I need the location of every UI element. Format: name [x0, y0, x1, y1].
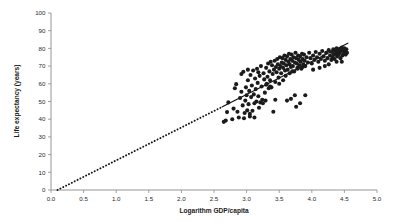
- x-tick-label: 1.5: [144, 195, 153, 202]
- data-point: [327, 62, 331, 66]
- data-point: [310, 61, 314, 65]
- data-point: [237, 115, 241, 119]
- y-tick-label: 40: [39, 115, 46, 122]
- data-point: [290, 69, 294, 73]
- data-point: [271, 72, 275, 76]
- data-point: [262, 71, 266, 75]
- y-tick-label: 30: [39, 133, 46, 140]
- data-point: [277, 76, 281, 80]
- data-point: [284, 74, 288, 78]
- data-point: [253, 76, 257, 80]
- y-tick-label: 10: [39, 169, 46, 176]
- data-point: [277, 82, 281, 86]
- data-point: [311, 53, 315, 57]
- data-point: [344, 47, 348, 51]
- x-tick-label: 0.5: [79, 195, 88, 202]
- data-point: [335, 60, 339, 64]
- data-point: [281, 78, 285, 82]
- data-point: [245, 93, 249, 97]
- data-point: [273, 98, 277, 102]
- data-point: [315, 55, 319, 59]
- data-point: [252, 115, 256, 119]
- y-tick-label: 90: [39, 27, 46, 34]
- data-point: [248, 112, 252, 116]
- data-point: [257, 106, 261, 110]
- x-tick-label: 3.5: [275, 195, 284, 202]
- data-point: [318, 66, 322, 70]
- data-point: [262, 77, 266, 81]
- data-point: [247, 89, 251, 93]
- data-point: [263, 99, 267, 103]
- data-point: [241, 103, 245, 107]
- data-point: [256, 70, 260, 74]
- y-tick-label: 70: [39, 62, 46, 69]
- data-point: [242, 116, 246, 120]
- data-point: [286, 68, 290, 72]
- x-tick-label: 1.0: [112, 195, 121, 202]
- chart-canvas: 0102030405060708090100 0.00.51.01.52.02.…: [0, 0, 394, 222]
- data-point: [260, 84, 264, 88]
- data-point: [255, 67, 259, 71]
- data-point: [246, 78, 250, 82]
- y-tick-label: 20: [39, 151, 46, 158]
- data-point: [248, 73, 252, 77]
- data-point: [239, 90, 243, 94]
- data-point: [298, 101, 302, 105]
- data-point: [340, 60, 344, 64]
- x-tick-group: 0.00.51.01.52.02.53.03.54.04.55.0: [47, 190, 382, 202]
- data-point: [306, 61, 310, 65]
- data-point: [244, 85, 248, 89]
- data-point: [294, 105, 298, 109]
- data-point: [268, 84, 272, 88]
- data-point: [269, 60, 273, 64]
- data-point: [247, 102, 251, 106]
- scatter-chart-figure: 0102030405060708090100 0.00.51.01.52.02.…: [0, 0, 394, 222]
- data-point: [291, 64, 295, 68]
- y-tick-label: 60: [39, 80, 46, 87]
- data-point: [314, 50, 318, 54]
- data-point: [256, 81, 260, 85]
- x-axis-title: Logarithm GDP/capita: [179, 207, 249, 215]
- data-point: [254, 99, 258, 103]
- data-point: [321, 54, 325, 58]
- y-tick-label: 0: [42, 186, 46, 193]
- x-tick-label: 2.5: [210, 195, 219, 202]
- data-point: [289, 97, 293, 101]
- data-point: [224, 119, 228, 123]
- y-tick-label: 80: [39, 45, 46, 52]
- x-tick-label: 5.0: [373, 195, 382, 202]
- data-point: [295, 67, 299, 71]
- data-point: [301, 65, 305, 69]
- x-tick-label: 4.5: [340, 195, 349, 202]
- data-point: [279, 71, 283, 75]
- data-point: [250, 109, 254, 113]
- data-point: [232, 107, 236, 111]
- x-tick-label: 0.0: [47, 195, 56, 202]
- data-point: [251, 68, 255, 72]
- y-axis-title: Life expectancy (years): [13, 65, 21, 138]
- data-point: [264, 83, 268, 87]
- x-tick-label: 4.0: [307, 195, 316, 202]
- data-point: [259, 64, 263, 68]
- data-point: [256, 94, 260, 98]
- data-point: [264, 66, 268, 70]
- data-point: [250, 84, 254, 88]
- axes-group: [51, 13, 377, 190]
- data-point: [285, 99, 289, 103]
- data-point: [235, 110, 239, 114]
- data-point: [305, 55, 309, 59]
- data-point: [275, 70, 279, 74]
- data-point: [320, 49, 324, 53]
- data-point: [252, 92, 256, 96]
- y-tick-label: 100: [35, 9, 46, 16]
- data-point: [246, 68, 250, 72]
- data-point: [345, 51, 349, 55]
- data-points-group: [222, 45, 349, 123]
- data-point: [267, 69, 271, 73]
- data-point: [245, 108, 249, 112]
- data-point: [238, 96, 242, 100]
- data-point: [239, 72, 243, 76]
- data-point: [230, 117, 234, 121]
- data-point: [323, 64, 327, 68]
- data-point: [271, 110, 275, 114]
